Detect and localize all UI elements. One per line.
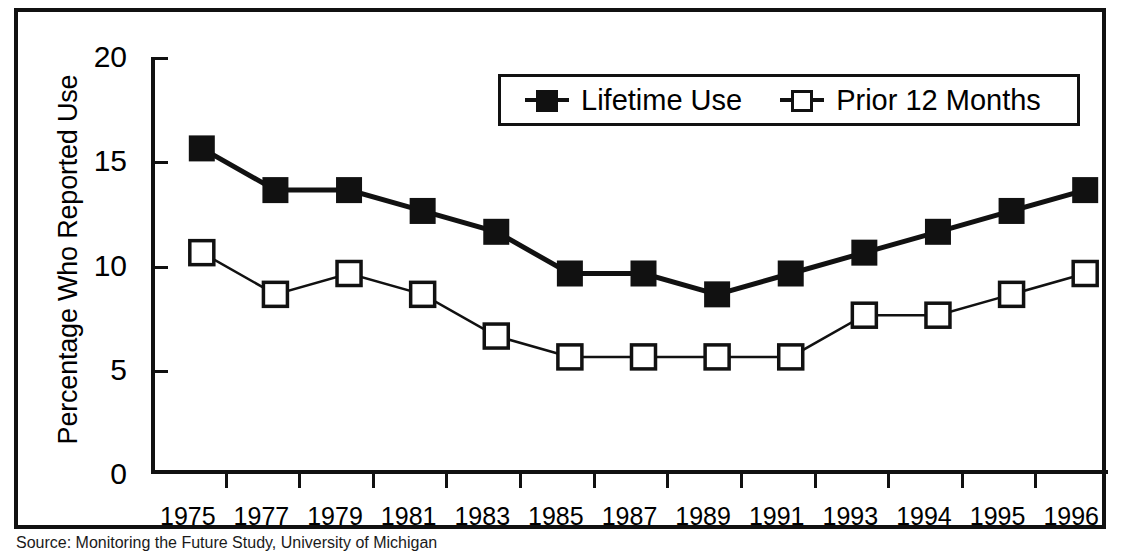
figure-frame: Percentage Who Reported Use 05101520 197… (14, 8, 1106, 529)
legend-label: Prior 12 Months (836, 85, 1041, 115)
y-tick-mark (151, 57, 168, 60)
x-tick-mark (814, 474, 817, 488)
x-tick-mark (225, 474, 228, 488)
chart-figure: Percentage Who Reported Use 05101520 197… (0, 0, 1122, 554)
y-tick-label: 15 (67, 146, 127, 176)
x-tick-mark (887, 474, 890, 488)
legend-entry: Prior 12 Months (780, 85, 1041, 115)
legend-label: Lifetime Use (581, 85, 742, 115)
x-tick-mark (593, 474, 596, 488)
x-tick-mark (1034, 474, 1037, 488)
y-tick-label: 0 (67, 459, 127, 489)
y-tick-mark (151, 266, 168, 269)
x-tick-mark (519, 474, 522, 488)
y-tick-mark (151, 370, 168, 373)
x-tick-mark (961, 474, 964, 488)
y-tick-label: 10 (67, 251, 127, 281)
legend-entry: Lifetime Use (525, 85, 742, 115)
x-tick-label: 1996 (1026, 502, 1116, 530)
filled-square-icon (525, 87, 569, 113)
y-tick-mark (151, 161, 168, 164)
chart-legend: Lifetime UsePrior 12 Months (498, 74, 1080, 126)
y-tick-label: 20 (67, 42, 127, 72)
open-square-icon (780, 87, 824, 113)
x-tick-mark (298, 474, 301, 488)
y-tick-label: 5 (67, 355, 127, 385)
x-tick-mark (740, 474, 743, 488)
source-note: Source: Monitoring the Future Study, Uni… (16, 534, 437, 552)
x-tick-mark (372, 474, 375, 488)
x-tick-mark (666, 474, 669, 488)
x-tick-mark (445, 474, 448, 488)
